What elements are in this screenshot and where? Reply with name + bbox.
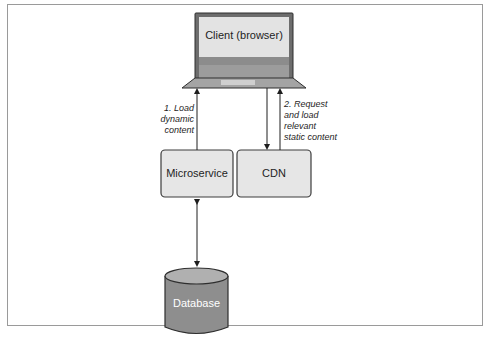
- edge-label-line: 1. Load: [150, 103, 194, 114]
- microservice-label: Microservice: [161, 167, 233, 179]
- edge-label-line: dynamic: [150, 114, 194, 125]
- edge-label-line: 2. Request: [284, 99, 364, 110]
- edge-label-line: and load: [284, 110, 364, 121]
- laptop-icon: [182, 13, 306, 88]
- edge-label-load-dynamic: 1. Load dynamic content: [150, 103, 194, 136]
- edge-label-request-static: 2. Request and load relevant static cont…: [284, 99, 364, 143]
- edge-label-line: content: [150, 125, 194, 136]
- edge-label-line: static content: [284, 132, 364, 143]
- edge-label-line: relevant: [284, 121, 364, 132]
- database-label: Database: [165, 297, 228, 309]
- cdn-label: CDN: [237, 167, 311, 179]
- client-label: Client (browser): [199, 29, 289, 41]
